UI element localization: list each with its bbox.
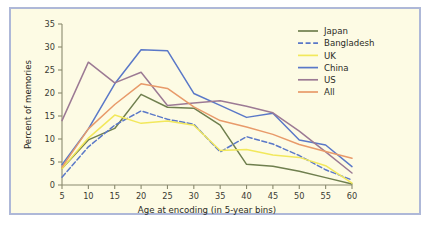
legend-label-all: All xyxy=(324,87,335,97)
legend-label-japan: Japan xyxy=(323,26,348,36)
chart-legend: JapanBangladeshUKChinaUSAll xyxy=(298,26,374,97)
y-tick-label: 30 xyxy=(45,42,55,52)
x-tick-label: 5 xyxy=(59,191,64,201)
x-tick-label: 55 xyxy=(320,191,330,201)
series-line-us xyxy=(62,62,352,173)
chart-canvas: 0510152025303551015202530354045505560Age… xyxy=(11,9,423,217)
series-line-bangladesh xyxy=(62,111,352,180)
x-tick-label: 10 xyxy=(83,191,93,201)
x-tick-label: 30 xyxy=(189,191,199,201)
x-axis-title: Age at encoding (in 5-year bins) xyxy=(138,205,276,215)
line-chart: 0510152025303551015202530354045505560Age… xyxy=(11,9,423,217)
x-tick-label: 25 xyxy=(162,191,172,201)
y-tick-label: 5 xyxy=(50,157,55,167)
y-axis-title: Percent of memories xyxy=(23,59,33,149)
x-tick-label: 45 xyxy=(268,191,278,201)
y-tick-label: 35 xyxy=(45,19,55,29)
y-tick-label: 10 xyxy=(45,134,55,144)
y-tick-label: 25 xyxy=(45,65,55,75)
series-line-all xyxy=(62,84,352,167)
axis-labels: 0510152025303551015202530354045505560Age… xyxy=(23,19,357,215)
legend-label-bangladesh: Bangladesh xyxy=(324,38,374,48)
legend-label-uk: UK xyxy=(324,51,336,61)
x-tick-label: 20 xyxy=(136,191,146,201)
legend-label-us: US xyxy=(324,75,336,85)
x-tick-label: 35 xyxy=(215,191,225,201)
y-tick-label: 15 xyxy=(45,111,55,121)
y-tick-label: 0 xyxy=(50,180,55,190)
chart-figure: 0510152025303551015202530354045505560Age… xyxy=(9,7,421,215)
x-tick-label: 50 xyxy=(294,191,304,201)
series-lines xyxy=(62,50,352,184)
legend-label-china: China xyxy=(324,63,349,73)
x-tick-label: 40 xyxy=(241,191,251,201)
x-tick-label: 15 xyxy=(110,191,120,201)
y-tick-label: 20 xyxy=(45,88,55,98)
x-tick-label: 60 xyxy=(347,191,357,201)
